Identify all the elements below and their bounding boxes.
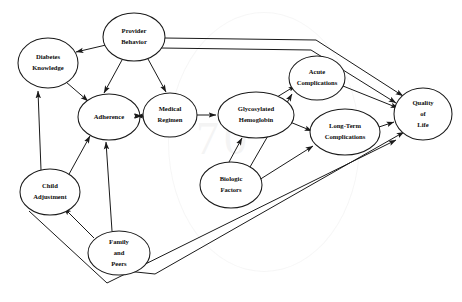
edge-acute-complications-to-quality-of-life xyxy=(343,86,398,108)
node-child-adjustment-label-line-1: Child xyxy=(42,182,58,189)
edge-child-adjustment-to-adherence xyxy=(68,136,90,176)
node-family-and-peers-label-line-3: Peers xyxy=(111,260,127,267)
node-family-and-peers-label-line-2: and xyxy=(114,249,125,256)
path-diagram-canvas: 70 xyxy=(0,0,462,302)
node-diabetes-knowledge-label-line-2: Knowledge xyxy=(32,64,64,71)
node-acute-complications-label-line-2: Complications xyxy=(297,79,338,86)
node-medical-regimen-shape[interactable] xyxy=(143,93,197,137)
node-medical-regimen-label-line-1: Medical xyxy=(159,105,182,112)
node-biologic-factors-shape[interactable] xyxy=(200,162,262,208)
node-glycosylated-hemoglobin-label-line-1: Glycosylated xyxy=(238,105,275,112)
edge-family-and-peers-to-adherence xyxy=(106,142,112,231)
edge-provider-behavior-to-quality-of-life-inner xyxy=(161,48,396,103)
node-diabetes-knowledge-shape[interactable] xyxy=(18,38,78,88)
edge-biologic-factors-to-glycosylated-hemoglobin xyxy=(229,138,242,162)
edge-biologic-factors-to-long-term-complications xyxy=(259,146,313,180)
node-quality-of-life[interactable]: Quality of Life xyxy=(394,88,452,140)
node-family-and-peers[interactable]: Family and Peers xyxy=(88,231,150,275)
node-glycosylated-hemoglobin-label-line-2: Hemoglobin xyxy=(239,116,274,123)
node-acute-complications-label-line-1: Acute xyxy=(309,68,326,75)
edge-provider-behavior-to-diabetes-knowledge xyxy=(76,45,106,52)
node-child-adjustment[interactable]: Child Adjustment xyxy=(20,169,80,215)
node-long-term-complications-shape[interactable] xyxy=(310,109,380,155)
edge-long-term-complications-to-quality-of-life xyxy=(379,122,394,127)
node-biologic-factors[interactable]: Biologic Factors xyxy=(200,162,262,208)
edge-provider-behavior-to-medical-regimen xyxy=(148,59,166,92)
node-acute-complications[interactable]: Acute Complications xyxy=(289,56,345,100)
node-family-and-peers-label-line-1: Family xyxy=(109,238,129,245)
node-long-term-complications[interactable]: Long-Term Complications xyxy=(310,109,380,155)
node-provider-behavior-shape[interactable] xyxy=(103,13,165,61)
node-quality-of-life-label-line-2: of xyxy=(420,110,426,117)
node-child-adjustment-shape[interactable] xyxy=(20,169,80,215)
diagram-graphics: Provider Behavior Diabetes Knowledge Adh… xyxy=(0,0,462,302)
node-long-term-complications-label-line-1: Long-Term xyxy=(329,122,362,129)
edge-glycosylated-hemoglobin-to-long-term-complications xyxy=(290,122,312,131)
node-provider-behavior[interactable]: Provider Behavior xyxy=(103,13,165,61)
node-child-adjustment-label-line-2: Adjustment xyxy=(33,193,67,200)
node-acute-complications-shape[interactable] xyxy=(289,56,345,100)
node-quality-of-life-label-line-1: Quality xyxy=(412,99,434,106)
node-glycosylated-hemoglobin-shape[interactable] xyxy=(218,92,294,138)
edge-family-and-peers-to-child-adjustment xyxy=(64,208,94,238)
node-medical-regimen[interactable]: Medical Regimen xyxy=(143,93,197,137)
node-diabetes-knowledge[interactable]: Diabetes Knowledge xyxy=(18,38,78,88)
node-adherence[interactable]: Adherence xyxy=(78,94,140,140)
node-medical-regimen-label-line-2: Regimen xyxy=(158,116,183,123)
edge-child-adjustment-to-quality-of-life xyxy=(29,140,396,283)
node-provider-behavior-label-line-1: Provider xyxy=(122,27,147,34)
edge-child-adjustment-to-diabetes-knowledge xyxy=(38,91,41,170)
node-long-term-complications-label-line-2: Complications xyxy=(325,133,366,140)
node-biologic-factors-label-line-1: Biologic xyxy=(220,175,243,182)
node-biologic-factors-label-line-2: Factors xyxy=(220,186,242,193)
node-quality-of-life-label-line-3: Life xyxy=(417,121,428,128)
edges-layer xyxy=(29,38,404,283)
node-glycosylated-hemoglobin[interactable]: Glycosylated Hemoglobin xyxy=(218,92,294,138)
edge-provider-behavior-to-adherence xyxy=(104,60,122,93)
node-adherence-label: Adherence xyxy=(94,113,124,120)
edge-provider-behavior-to-quality-of-life-outer xyxy=(164,38,403,96)
node-provider-behavior-label-line-2: Behavior xyxy=(121,38,147,45)
edge-diabetes-knowledge-to-adherence xyxy=(66,82,88,101)
node-diabetes-knowledge-label-line-1: Diabetes xyxy=(36,53,61,60)
